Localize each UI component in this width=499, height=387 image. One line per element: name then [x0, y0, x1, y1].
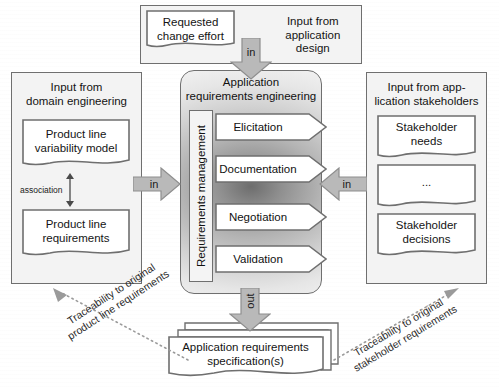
- activity-documentation[interactable]: Documentation: [215, 155, 327, 183]
- flow-arrow-top-in: in: [230, 38, 272, 80]
- activity-negotiation[interactable]: Negotiation: [215, 203, 327, 231]
- flow-arrow-right-in-label: in: [343, 178, 352, 190]
- flow-arrow-right-in: in: [319, 167, 367, 201]
- requirements-management-label: Requirements management: [195, 125, 207, 267]
- activity-elicitation[interactable]: Elicitation: [215, 113, 327, 141]
- document-ellipsis: ...: [377, 164, 476, 209]
- document-stakeholder-needs: Stakeholder needs: [377, 115, 476, 160]
- document-stakeholder-decisions: Stakeholder decisions: [377, 213, 476, 258]
- document-product-line-variability-model: Product line variability model: [22, 119, 130, 169]
- activity-elicitation-label: Elicitation: [215, 121, 301, 133]
- panel-application-requirements-engineering-title: Application requirements engineering: [181, 76, 321, 103]
- flow-arrow-bottom-out: out: [229, 288, 271, 332]
- activity-validation[interactable]: Validation: [215, 245, 327, 273]
- document-requested-change-effort: Requested change effort: [146, 10, 235, 50]
- association-label: association: [20, 185, 63, 195]
- activity-negotiation-label: Negotiation: [215, 211, 301, 223]
- document-product-line-requirements-label: Product line requirements: [22, 218, 130, 245]
- association-connector: [62, 173, 78, 207]
- panel-domain-engineering-title: Input from domain engineering: [12, 81, 141, 108]
- document-product-line-requirements: Product line requirements: [22, 209, 130, 259]
- flow-arrow-left-in-label: in: [150, 178, 159, 190]
- requirements-management-strip: Requirements management: [189, 110, 213, 282]
- flow-arrow-top-in-label: in: [247, 46, 256, 58]
- document-application-requirements-specifications-label: Application requirements specification(s…: [172, 340, 319, 368]
- panel-application-design-title: Input from application design: [269, 15, 357, 56]
- flow-arrow-bottom-out-label: out: [244, 293, 256, 308]
- document-stakeholder-decisions-label: Stakeholder decisions: [377, 219, 476, 246]
- activity-validation-label: Validation: [215, 253, 301, 265]
- document-requested-change-effort-label: Requested change effort: [146, 16, 235, 43]
- diagram-canvas: Input from application design Requested …: [0, 0, 499, 387]
- flow-arrow-left-in: in: [133, 167, 181, 201]
- activity-documentation-label: Documentation: [215, 163, 301, 175]
- double-arrow-icon: [62, 173, 78, 207]
- document-product-line-variability-model-label: Product line variability model: [22, 128, 130, 155]
- document-stakeholder-needs-label: Stakeholder needs: [377, 121, 476, 148]
- document-ellipsis-label: ...: [377, 176, 476, 190]
- down-arrow-icon: [230, 38, 272, 80]
- panel-application-stakeholders-title: Input from app- lication stakeholders: [367, 81, 486, 108]
